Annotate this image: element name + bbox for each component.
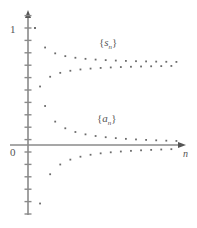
data-point-sn [69,70,71,72]
data-point-an [85,133,87,135]
data-point-sn [95,59,97,61]
data-point-sn [75,57,77,59]
data-point-an [115,137,117,139]
data-point-sn [170,65,172,67]
data-point-sn [105,59,107,61]
data-point-sn [165,61,167,63]
data-point-sn [120,66,122,68]
data-point-sn [49,76,51,78]
data-point-sn [100,67,102,69]
data-point-an [90,154,92,156]
data-point-sn [90,68,92,70]
data-point-an [105,136,107,138]
data-point-an [135,139,137,141]
data-point-sn [155,61,157,63]
data-point-an [120,151,122,153]
data-point-sn [176,61,178,63]
data-point-sn [85,58,87,60]
data-point-an [150,149,152,151]
data-point-an [170,148,172,150]
data-point-sn [115,60,117,62]
data-point-sn [64,55,66,57]
data-point-an [54,121,56,123]
data-point-an [130,150,132,152]
y-axis-tick-label-one: 1 [10,23,16,35]
data-point-sn [160,65,162,67]
series-label-sn: {sn} [99,36,117,51]
data-point-an [140,149,142,151]
data-point-sn [135,60,137,62]
data-point-an [80,156,82,158]
data-point-an [176,140,178,142]
data-point-an [64,127,66,129]
data-point-sn [110,67,112,69]
data-point-sn [145,61,147,63]
data-point-sn [34,27,36,29]
series-label-an: {an} [97,112,117,127]
data-point-sn [130,66,132,68]
data-point-sn [150,65,152,67]
data-point-sn [80,69,82,71]
x-axis-label: n [183,148,188,159]
data-point-an [39,203,41,205]
data-point-sn [125,60,127,62]
brace-close-an: } [111,112,116,124]
data-point-an [69,159,71,161]
data-point-an [95,135,97,137]
data-point-an [145,139,147,141]
data-point-sn [44,47,46,49]
data-point-an [110,151,112,153]
data-point-an [155,139,157,141]
y-axis-arrowhead [25,10,31,18]
data-point-an [125,138,127,140]
data-point-an [100,152,102,154]
origin-label: 0 [10,146,16,158]
data-point-an [75,131,77,133]
data-point-an [165,140,167,142]
data-point-an [59,164,61,166]
data-point-sn [59,72,61,74]
brace-close-sn: } [112,36,117,48]
data-point-an [44,105,46,107]
data-point-an [160,149,162,151]
data-point-sn [140,66,142,68]
sequence-convergence-figure: 1 0 n {sn} {an} [0,0,197,228]
data-point-sn [54,52,56,54]
data-point-sn [39,86,41,88]
data-point-an [49,173,51,175]
